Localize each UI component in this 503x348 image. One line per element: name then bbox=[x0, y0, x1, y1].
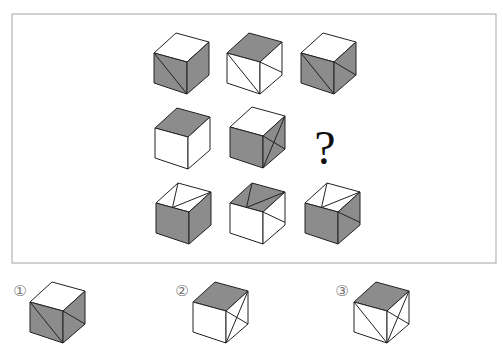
cube-r2c2 bbox=[230, 107, 285, 168]
option-label: ③ bbox=[335, 282, 348, 300]
cube-r3c2 bbox=[230, 183, 285, 244]
answer-options: ①②③ bbox=[13, 282, 409, 343]
option-label: ① bbox=[13, 282, 26, 300]
option-3[interactable]: ③ bbox=[335, 282, 409, 343]
question-mark: ? bbox=[314, 121, 335, 174]
option-2[interactable]: ② bbox=[175, 282, 248, 343]
cube-r1c2 bbox=[227, 33, 282, 94]
cube-r1c3 bbox=[301, 33, 356, 94]
puzzle-canvas: ? ①②③ bbox=[0, 0, 503, 348]
option-cube bbox=[354, 282, 409, 343]
cube-r1c1 bbox=[154, 33, 209, 94]
cube-r3c1 bbox=[156, 183, 211, 244]
cube-r3c3 bbox=[305, 183, 360, 244]
option-cube bbox=[30, 282, 85, 343]
option-cube bbox=[193, 282, 248, 343]
cube-r2c1 bbox=[155, 108, 210, 169]
option-1[interactable]: ① bbox=[13, 282, 85, 343]
option-label: ② bbox=[175, 282, 188, 300]
